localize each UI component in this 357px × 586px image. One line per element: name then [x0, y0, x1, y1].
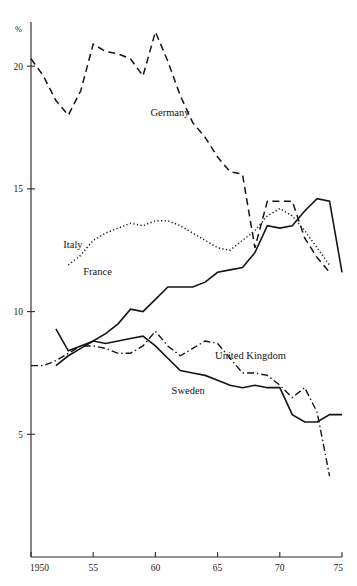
x-tick-label: 75 — [334, 563, 344, 573]
chart-container: 5101520 19505560657075 % GermanyItalyFra… — [0, 0, 357, 586]
series-label-sweden: Sweden — [172, 385, 206, 396]
y-tick-label: 10 — [14, 307, 24, 317]
y-tick-label: 20 — [14, 62, 24, 72]
series-label-italy: Italy — [63, 239, 83, 250]
series-line-italy — [68, 209, 329, 265]
x-tick-label: 65 — [213, 563, 223, 573]
x-tick-label: 1950 — [30, 563, 49, 573]
x-tick-label: 60 — [151, 563, 161, 573]
y-axis-unit-label: % — [15, 24, 22, 34]
y-tick-label: 5 — [18, 430, 23, 440]
series-label-germany: Germany — [150, 107, 190, 118]
series-line-germany — [31, 32, 330, 273]
x-tick-label: 55 — [88, 563, 98, 573]
x-axis-ticks: 19505560657075 — [30, 552, 343, 573]
series-label-united-kingdom: United Kingdom — [215, 350, 286, 361]
series-label-france: France — [83, 266, 112, 277]
y-axis-ticks: 5101520 — [14, 62, 36, 440]
x-tick-label: 70 — [275, 563, 285, 573]
axes-group — [31, 22, 342, 557]
series-line-sweden — [56, 329, 342, 422]
series-labels-group: GermanyItalyFranceUnited KingdomSweden — [63, 107, 286, 395]
series-lines-group — [31, 32, 342, 476]
line-chart: 5101520 19505560657075 % GermanyItalyFra… — [0, 0, 357, 586]
y-tick-label: 15 — [14, 184, 24, 194]
